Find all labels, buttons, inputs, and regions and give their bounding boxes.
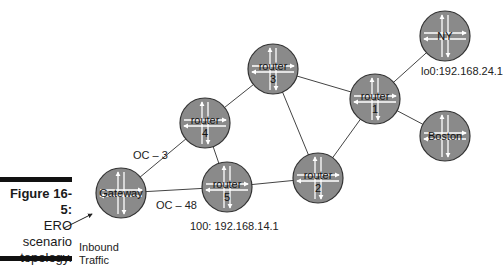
inbound-line-1: Inbound <box>79 241 119 254</box>
node-label: Boston <box>428 130 462 142</box>
caption-line-1: ERO <box>0 218 72 234</box>
node-gateway[interactable]: Gateway <box>96 168 146 218</box>
node-label: router <box>304 169 333 181</box>
node-label: Gateway <box>99 187 143 199</box>
caption-bottom-rule <box>0 256 72 261</box>
node-router4[interactable]: router4 <box>180 98 230 148</box>
inbound-traffic-label: Inbound Traffic <box>79 241 119 267</box>
link-label-oc48: OC – 48 <box>156 199 197 211</box>
node-router3[interactable]: router3 <box>248 44 298 94</box>
link-label-oc3: OC – 3 <box>133 149 168 161</box>
caption-line-2: scenario <box>0 234 72 250</box>
node-router5[interactable]: router5 <box>202 162 252 212</box>
node-boston[interactable]: Boston <box>420 111 470 161</box>
figure-caption: Figure 16-5: ERO scenario topology. <box>0 186 72 266</box>
nodes-layer: Gatewayrouter4router5router3router2route… <box>96 11 470 218</box>
figure-number: Figure 16-5: <box>0 186 72 218</box>
node-label: router <box>191 114 220 126</box>
node-label: router <box>213 178 242 190</box>
ny-address: lo0:192.168.24.1 <box>421 65 503 77</box>
inbound-line-2: Traffic <box>79 254 119 267</box>
router5-address: 100: 192.168.14.1 <box>190 220 279 232</box>
node-label: router <box>259 60 288 72</box>
node-router2[interactable]: router2 <box>293 153 343 203</box>
node-label: router <box>361 90 390 102</box>
node-ny[interactable]: NY <box>420 11 470 61</box>
node-router1[interactable]: router1 <box>350 74 400 124</box>
node-number: 4 <box>202 127 208 139</box>
node-number: 1 <box>372 103 378 115</box>
node-number: 5 <box>224 191 230 203</box>
node-number: 3 <box>270 73 276 85</box>
caption-top-rule <box>0 177 72 182</box>
node-label: NY <box>437 30 453 42</box>
node-number: 2 <box>315 182 321 194</box>
